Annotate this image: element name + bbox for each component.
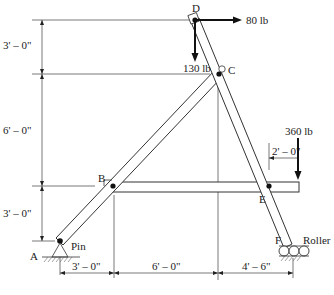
pin-e — [266, 183, 271, 188]
label-roller-support: Roller — [303, 234, 331, 246]
label-joint-d: D — [192, 2, 200, 14]
label-joint-b: B — [98, 172, 105, 184]
diagram-canvas: 3' – 0" 6' – 0" 3' – 0" 3' – 0" 6' – 0" … — [0, 0, 334, 295]
label-360lb: 360 lb — [285, 125, 313, 137]
label-pin-support: Pin — [71, 240, 86, 252]
dim-vertical-top: 3' – 0" — [3, 39, 31, 51]
dim-horizontal-right: 4' – 6" — [242, 260, 270, 272]
overhang-dimension: 2' – 0" — [269, 145, 300, 160]
dim-horizontal-middle: 6' – 0" — [152, 260, 180, 272]
label-joint-a: A — [30, 250, 38, 262]
roller-support-f — [279, 246, 309, 261]
vertical-dimension: 3' – 0" 6' – 0" 3' – 0" — [2, 20, 44, 241]
label-130lb: 130 lb — [183, 62, 211, 74]
label-80lb: 80 lb — [246, 14, 269, 26]
dim-horizontal-left: 3' – 0" — [72, 260, 100, 272]
label-joint-c: C — [228, 64, 235, 76]
horizontal-dimension: 3' – 0" 6' – 0" 4' – 6" — [60, 260, 293, 275]
dim-overhang: 2' – 0" — [272, 145, 300, 157]
dim-vertical-middle: 6' – 0" — [3, 124, 31, 136]
member-df — [191, 18, 292, 248]
dim-vertical-bottom: 3' – 0" — [3, 207, 31, 219]
pin-c — [216, 71, 221, 76]
member-ac — [56, 70, 222, 245]
frame-diagram: 3' – 0" 6' – 0" 3' – 0" 3' – 0" 6' – 0" … — [0, 0, 334, 295]
label-joint-e: E — [259, 193, 266, 205]
label-joint-f: F — [275, 234, 281, 246]
force-80lb — [196, 17, 242, 24]
pin-b — [110, 183, 115, 188]
